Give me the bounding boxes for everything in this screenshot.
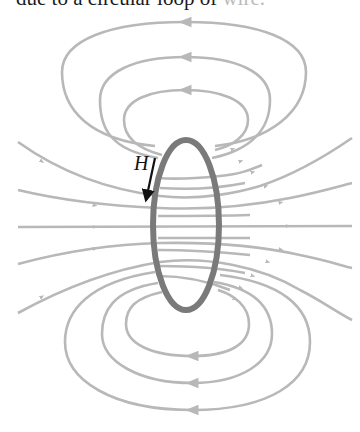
field-label-h: H — [134, 152, 148, 175]
current-loop — [153, 140, 219, 310]
field-diagram — [0, 0, 360, 432]
open-field-lines — [18, 138, 352, 320]
field-line-top-outer — [62, 22, 306, 146]
lower-closed-field-lines — [65, 272, 310, 410]
